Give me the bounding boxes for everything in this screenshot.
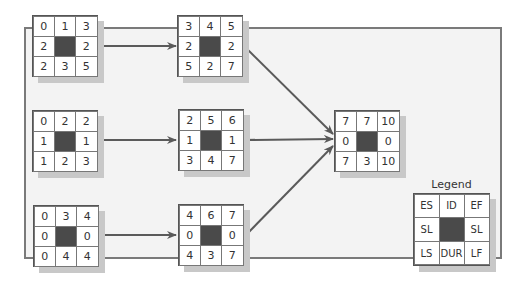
dur-cell: 3 (356, 151, 378, 172)
dur-cell: 4 (200, 150, 222, 171)
id-cell: 2 (54, 111, 76, 132)
center-cell (54, 131, 76, 152)
sl-left-cell: 1 (33, 131, 55, 152)
sl-right-cell: 0 (76, 226, 98, 247)
legend-ef: EF (464, 194, 490, 219)
activity-node: 0 3 4 0 0 0 4 4 (33, 205, 99, 267)
lf-cell: 7 (221, 245, 243, 266)
lf-cell: 4 (76, 246, 98, 267)
center-cell (356, 131, 378, 152)
dur-cell: 2 (199, 56, 221, 77)
ef-cell: 5 (220, 16, 242, 37)
ls-cell: 7 (335, 151, 357, 172)
center-cell (199, 36, 221, 57)
activity-node: 2 5 6 1 1 3 4 7 (178, 109, 244, 171)
activity-node: 3 4 5 2 2 5 2 7 (177, 15, 243, 77)
sl-right-cell: 1 (221, 130, 243, 151)
dur-cell: 3 (200, 245, 222, 266)
sl-right-cell: 0 (221, 225, 243, 246)
id-cell: 5 (200, 110, 222, 131)
activity-node: 4 6 7 0 0 4 3 7 (178, 204, 244, 266)
ls-cell: 2 (33, 56, 55, 77)
es-cell: 2 (179, 110, 201, 131)
id-cell: 6 (200, 205, 222, 226)
legend: ES ID EF SL SL LS DUR LF (413, 193, 490, 266)
dur-cell: 2 (54, 151, 76, 172)
sl-right-cell: 1 (75, 131, 97, 152)
ls-cell: 4 (179, 245, 201, 266)
sl-left-cell: 0 (179, 225, 201, 246)
es-cell: 0 (34, 206, 56, 227)
sl-right-cell: 2 (220, 36, 242, 57)
center-cell (200, 225, 222, 246)
lf-cell: 7 (221, 150, 243, 171)
id-cell: 3 (55, 206, 77, 227)
id-cell: 1 (54, 16, 76, 37)
es-cell: 4 (179, 205, 201, 226)
lf-cell: 10 (377, 151, 399, 172)
es-cell: 7 (335, 111, 357, 132)
arrow-n2-n7 (244, 46, 333, 134)
es-cell: 0 (33, 16, 55, 37)
ls-cell: 0 (34, 246, 56, 267)
ef-cell: 2 (75, 111, 97, 132)
activity-node: 0 1 3 2 2 2 3 5 (32, 15, 98, 77)
legend-es: ES (414, 194, 440, 219)
activity-node: 0 2 2 1 1 1 2 3 (32, 110, 98, 172)
sl-right-cell: 2 (75, 36, 97, 57)
arrow-n4-n7 (245, 139, 333, 140)
id-cell: 7 (356, 111, 378, 132)
legend-sl-right: SL (464, 217, 490, 242)
legend-id: ID (439, 194, 465, 219)
ef-cell: 4 (76, 206, 98, 227)
es-cell: 0 (33, 111, 55, 132)
center-cell (200, 130, 222, 151)
dur-cell: 3 (54, 56, 76, 77)
arrow-n6-n7 (245, 146, 333, 236)
ef-cell: 7 (221, 205, 243, 226)
ls-cell: 3 (179, 150, 201, 171)
ls-cell: 5 (178, 56, 200, 77)
id-cell: 4 (199, 16, 221, 37)
center-cell (54, 36, 76, 57)
lf-cell: 5 (75, 56, 97, 77)
dur-cell: 4 (55, 246, 77, 267)
ef-cell: 3 (75, 16, 97, 37)
legend-center (439, 217, 465, 242)
legend-sl-left: SL (414, 217, 440, 242)
legend-dur: DUR (439, 241, 465, 266)
sl-left-cell: 1 (179, 130, 201, 151)
lf-cell: 7 (220, 56, 242, 77)
legend-ls: LS (414, 241, 440, 266)
sl-right-cell: 0 (377, 131, 399, 152)
es-cell: 3 (178, 16, 200, 37)
legend-lf: LF (464, 241, 490, 266)
center-cell (55, 226, 77, 247)
lf-cell: 3 (75, 151, 97, 172)
activity-node-final: 7 7 10 0 0 7 3 10 (334, 110, 400, 172)
sl-left-cell: 2 (33, 36, 55, 57)
ef-cell: 6 (221, 110, 243, 131)
sl-left-cell: 0 (335, 131, 357, 152)
sl-left-cell: 2 (178, 36, 200, 57)
ef-cell: 10 (377, 111, 399, 132)
ls-cell: 1 (33, 151, 55, 172)
legend-title: Legend (413, 178, 490, 191)
sl-left-cell: 0 (34, 226, 56, 247)
